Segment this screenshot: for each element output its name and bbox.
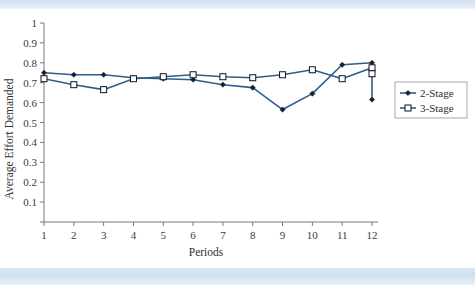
y-tick-label: 0.9 — [23, 37, 37, 49]
x-tick-label: 3 — [101, 229, 107, 241]
legend-label: 3-Stage — [420, 102, 454, 114]
x-axis-title: Periods — [189, 246, 224, 258]
data-point-square — [190, 72, 196, 78]
x-tick-label: 12 — [367, 229, 378, 241]
data-point-diamond — [101, 72, 106, 77]
x-axis: 123456789101112 — [41, 222, 378, 241]
data-point-square — [280, 72, 286, 78]
y-tick-label: 0.2 — [23, 176, 37, 188]
x-axis-tick-labels: 123456789101112 — [41, 229, 377, 241]
y-tick-label: 0.4 — [23, 136, 37, 148]
y-tick-label: 0.7 — [23, 77, 37, 89]
data-point-diamond — [41, 70, 46, 75]
data-point-diamond — [71, 72, 76, 77]
data-series-group — [41, 60, 375, 112]
legend-label: 2-Stage — [420, 87, 454, 99]
data-point-square — [130, 76, 136, 82]
y-tick-label: 0.1 — [23, 196, 37, 208]
data-point-diamond — [220, 82, 225, 87]
y-tick-label: 0.3 — [23, 156, 37, 168]
y-axis-ticks — [40, 23, 44, 222]
x-axis-ticks — [44, 222, 372, 226]
x-tick-label: 9 — [280, 229, 286, 241]
x-tick-label: 10 — [307, 229, 319, 241]
line-chart: 0.10.20.30.40.50.60.70.80.91 12345678910… — [0, 9, 475, 268]
decorative-band-bottom — [0, 268, 475, 285]
data-point-square — [160, 74, 166, 80]
data-point-square — [41, 76, 47, 82]
data-point-square — [309, 67, 315, 73]
data-point-square — [369, 65, 375, 71]
data-point-square — [339, 76, 345, 82]
data-point-square — [369, 71, 375, 77]
decorative-band-top — [0, 0, 475, 9]
chart-legend: 2-Stage3-Stage — [395, 82, 467, 118]
series-2-stage — [41, 60, 374, 112]
y-tick-label: 1 — [32, 17, 38, 29]
series-line-2-stage — [44, 63, 372, 110]
x-tick-label: 1 — [41, 229, 47, 241]
series-line-3-stage — [44, 68, 372, 90]
y-axis: 0.10.20.30.40.50.60.70.80.91 — [23, 17, 44, 222]
x-tick-label: 6 — [190, 229, 196, 241]
y-axis-title: Average Effort Demanded — [3, 78, 16, 199]
data-point-diamond — [369, 97, 374, 102]
series-3-stage — [41, 65, 375, 93]
data-point-square — [220, 74, 226, 80]
x-tick-label: 4 — [131, 229, 137, 241]
x-tick-label: 8 — [250, 229, 256, 241]
y-axis-tick-labels: 0.10.20.30.40.50.60.70.80.91 — [23, 17, 37, 208]
legend-marker-square — [405, 105, 411, 111]
x-tick-label: 11 — [337, 229, 348, 241]
x-tick-label: 7 — [220, 229, 226, 241]
data-point-square — [71, 82, 77, 88]
y-tick-label: 0.5 — [23, 117, 37, 129]
data-point-square — [101, 87, 107, 93]
x-tick-label: 2 — [71, 229, 77, 241]
data-point-square — [250, 75, 256, 81]
y-tick-label: 0.8 — [23, 57, 37, 69]
chart-figure: 0.10.20.30.40.50.60.70.80.91 12345678910… — [0, 9, 475, 268]
x-tick-label: 5 — [161, 229, 167, 241]
y-tick-label: 0.6 — [23, 97, 37, 109]
